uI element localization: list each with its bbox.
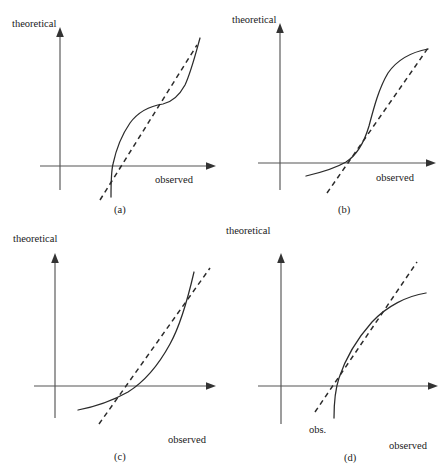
qq-plot-figure: theoretical observed (a) theoretical obs…	[0, 0, 448, 474]
y-axis-arrowhead	[56, 27, 64, 37]
sample-curve-c	[78, 272, 194, 410]
panel-d-caption: (d)	[344, 452, 356, 463]
reference-line-d	[315, 262, 417, 412]
panel-d-x-axis-label: observed	[389, 440, 427, 452]
panel-d: theoretical obs. observed (d)	[224, 228, 448, 465]
x-axis-arrowhead	[206, 162, 216, 170]
x-axis-arrowhead	[426, 159, 436, 167]
panel-b-x-axis-label: observed	[376, 172, 414, 184]
panel-a-y-axis-label: theoretical	[12, 18, 56, 30]
panel-d-obs-label: obs.	[309, 424, 326, 436]
x-axis-arrowhead	[206, 382, 216, 390]
panel-a: theoretical observed (a)	[0, 0, 224, 237]
sample-curve-b	[306, 49, 428, 176]
y-axis-arrowhead	[277, 253, 285, 263]
y-axis-arrowhead	[51, 253, 59, 263]
sample-curve-d	[334, 293, 426, 418]
panel-b: theoretical observed (b)	[224, 0, 448, 237]
y-axis-arrowhead	[276, 23, 284, 33]
panel-b-y-axis-label: theoretical	[232, 14, 276, 26]
panel-a-plot	[0, 0, 224, 246]
panel-c-x-axis-label: observed	[168, 434, 206, 446]
panel-d-y-axis-label: theoretical	[226, 225, 270, 237]
panel-c-y-axis-label: theoretical	[13, 233, 57, 245]
reference-line-c	[99, 268, 210, 424]
panel-b-caption: (b)	[338, 204, 350, 215]
panel-d-plot	[224, 228, 448, 474]
panel-b-plot	[224, 0, 448, 246]
panel-c-caption: (c)	[114, 451, 126, 462]
x-axis-arrowhead	[428, 382, 438, 390]
panel-c: theoretical observed (c)	[0, 228, 224, 465]
panel-a-x-axis-label: observed	[155, 174, 193, 186]
panel-a-caption: (a)	[114, 204, 126, 215]
